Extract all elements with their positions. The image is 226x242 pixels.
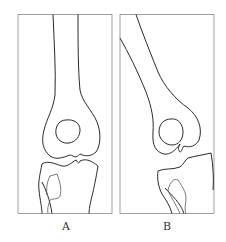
patella-b — [159, 119, 183, 145]
panel-a-frame — [18, 15, 112, 214]
panel-b-frame — [120, 15, 214, 214]
diagram-canvas — [0, 0, 226, 242]
panel-b — [120, 15, 214, 214]
tibia-b-plateau — [158, 153, 211, 171]
patella-a — [56, 120, 80, 143]
tibia-a-medial — [39, 164, 42, 214]
femur-b-medial — [120, 38, 180, 154]
panel-a-label: A — [56, 220, 76, 233]
tibia-a-lateral — [89, 166, 98, 214]
panel-a — [18, 15, 112, 214]
fibula-a — [47, 174, 61, 214]
knee-joint-diagram: A B — [0, 0, 226, 242]
tibia-b-medial — [158, 171, 172, 214]
tibia-a-plateau — [42, 160, 98, 166]
femur-b-lateral — [136, 15, 200, 153]
femur-a-lateral — [70, 15, 100, 157]
tibia-b-inner — [165, 188, 184, 214]
tibia-b-lateral — [211, 153, 213, 190]
panel-b-label: B — [157, 220, 177, 233]
